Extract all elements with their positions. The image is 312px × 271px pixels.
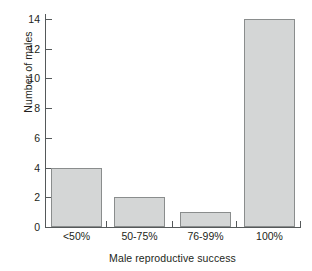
y-tick-label: 2 xyxy=(6,192,40,203)
y-tick-label: 4 xyxy=(6,163,40,174)
x-tick-label: <50% xyxy=(41,231,113,242)
x-tick-label: 100% xyxy=(234,231,306,242)
y-axis-line xyxy=(45,14,46,228)
bar xyxy=(244,19,295,227)
y-tick-mark xyxy=(46,49,52,50)
y-tick-label: 10 xyxy=(6,73,40,84)
x-tick-mark xyxy=(172,221,173,227)
bar xyxy=(51,168,102,227)
bar xyxy=(180,212,231,227)
y-tick-mark xyxy=(46,78,52,79)
y-tick-mark xyxy=(46,227,52,228)
x-axis-line xyxy=(45,227,301,228)
x-tick-mark xyxy=(236,221,237,227)
x-tick-mark xyxy=(106,221,107,227)
x-tick-mark xyxy=(300,221,301,227)
bar-chart-figure: Number of males Male reproductive succes… xyxy=(0,0,312,271)
y-tick-label: 12 xyxy=(6,44,40,55)
x-tick-label: 50-75% xyxy=(104,231,176,242)
x-axis-title: Male reproductive success xyxy=(45,252,300,264)
y-tick-label: 0 xyxy=(6,222,40,233)
y-tick-mark xyxy=(46,19,52,20)
x-tick-label: 76-99% xyxy=(170,231,242,242)
y-tick-label: 14 xyxy=(6,14,40,25)
y-tick-mark xyxy=(46,108,52,109)
bar xyxy=(114,197,165,227)
y-tick-mark xyxy=(46,138,52,139)
y-tick-label: 6 xyxy=(6,133,40,144)
y-tick-label: 8 xyxy=(6,103,40,114)
